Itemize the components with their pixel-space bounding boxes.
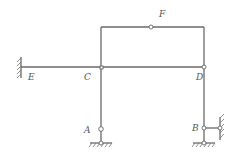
hinge-B: [202, 126, 206, 130]
label-B: B: [191, 123, 199, 133]
frame-diagram: E C D F A B: [0, 0, 239, 162]
hinge-A: [99, 127, 104, 132]
joint-C: [100, 66, 103, 69]
hinge-D: [202, 65, 206, 69]
label-A: A: [83, 125, 91, 135]
label-F: F: [158, 9, 166, 19]
fixed-support-E: [17, 57, 21, 78]
hinge-B-wall: [218, 126, 222, 130]
hinge-F: [149, 25, 153, 29]
label-E: E: [27, 72, 35, 82]
label-C: C: [84, 72, 91, 82]
pin-support-B: [192, 141, 215, 147]
pin-support-A: [89, 141, 112, 147]
label-D: D: [195, 72, 203, 82]
